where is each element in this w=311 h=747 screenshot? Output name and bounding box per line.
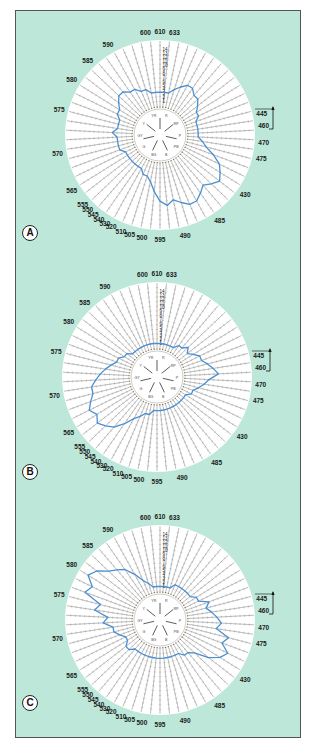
- wavelength-label: 570: [49, 392, 60, 399]
- wavelength-label: 580: [63, 318, 74, 325]
- hue-label: PB: [174, 145, 179, 149]
- hue-label: YR: [148, 356, 153, 360]
- wavelength-label: 445: [253, 352, 264, 359]
- hue-label: RP: [174, 122, 180, 126]
- wavelength-label: 470: [258, 139, 269, 146]
- hue-label: RP: [171, 364, 177, 368]
- hue-label: YR: [151, 114, 156, 118]
- hue-label: GY: [137, 134, 143, 138]
- wavelength-label: 610: [152, 270, 163, 277]
- wavelength-label: 500: [137, 719, 148, 726]
- wavelength-label: 475: [256, 640, 267, 647]
- panel-label-c: C: [22, 695, 38, 711]
- wavelength-label: 485: [214, 702, 225, 709]
- wavelength-label: 470: [255, 381, 266, 388]
- arrow-up-icon: [271, 591, 274, 595]
- wavelength-label: 590: [103, 526, 114, 533]
- hue-label: G: [142, 145, 145, 149]
- wavelength-label: 500: [137, 234, 148, 241]
- wavelength-label: 505: [124, 716, 135, 723]
- radial-scale-label: 1: [163, 99, 166, 104]
- arrow-up-icon: [268, 348, 271, 352]
- wavelength-label: 475: [256, 155, 267, 162]
- panel-label-b: B: [22, 464, 38, 480]
- wavelength-label: 470: [258, 624, 269, 631]
- wavelength-label: 505: [121, 473, 132, 480]
- hue-label: BG: [148, 395, 153, 399]
- hue-label: YR: [151, 599, 156, 603]
- wavelength-label: 575: [54, 591, 65, 598]
- wavelength-label: 490: [180, 232, 191, 239]
- wavelength-label: 600: [140, 514, 151, 521]
- wavelength-label: 460: [258, 122, 269, 129]
- wavelength-label: 570: [52, 635, 63, 642]
- wavelength-label: 585: [79, 299, 90, 306]
- hue-label: BG: [151, 153, 156, 157]
- wavelength-label: 570: [52, 150, 63, 157]
- hue-label: BG: [151, 638, 156, 642]
- panel-a: RRPPPBBBGGGYYYR1413121110987654321600610…: [0, 0, 311, 245]
- polar-chart-c: RRPPPBBBGGGYYYR1413121110987654321600610…: [0, 485, 311, 730]
- wavelength-label: 610: [155, 513, 166, 520]
- wavelength-label: 633: [169, 514, 180, 521]
- wavelength-label: 590: [100, 283, 111, 290]
- polar-chart-a: RRPPPBBBGGGYYYR1413121110987654321600610…: [0, 0, 311, 245]
- hue-label: G: [139, 387, 142, 391]
- panel-label-a: A: [22, 225, 38, 241]
- hue-label: RP: [174, 607, 180, 611]
- arrow-up-icon: [271, 106, 274, 110]
- wavelength-label: 575: [51, 348, 62, 355]
- wavelength-label: 430: [240, 191, 251, 198]
- wavelength-label: 460: [258, 607, 269, 614]
- hue-label: PB: [174, 630, 179, 634]
- wavelength-label: 485: [214, 217, 225, 224]
- wavelength-label: 600: [137, 271, 148, 278]
- wavelength-label: 595: [155, 236, 166, 243]
- wavelength-label: 460: [255, 364, 266, 371]
- hue-label: R: [165, 599, 168, 603]
- hue-label: PB: [171, 387, 176, 391]
- hue-label: G: [142, 630, 145, 634]
- wavelength-label: 430: [237, 433, 248, 440]
- wavelength-label: 595: [155, 721, 166, 728]
- wavelength-label: 585: [82, 57, 93, 64]
- wavelength-label: 600: [140, 29, 151, 36]
- wavelength-label: 490: [177, 474, 188, 481]
- hue-label: GY: [134, 376, 140, 380]
- hue-label: R: [165, 114, 168, 118]
- wavelength-label: 610: [155, 28, 166, 35]
- wavelength-label: 565: [66, 672, 77, 679]
- wavelength-label: 500: [134, 476, 145, 483]
- wavelength-label: 633: [169, 29, 180, 36]
- wavelength-label: 485: [211, 459, 222, 466]
- wavelength-label: 580: [66, 76, 77, 83]
- wavelength-label: 445: [256, 110, 267, 117]
- hue-label: GY: [137, 619, 143, 623]
- wavelength-label: 565: [63, 429, 74, 436]
- polar-chart-b: RRPPPBBBGGGYYYR1413121110987654321600610…: [0, 243, 311, 488]
- hue-label: R: [162, 356, 165, 360]
- wavelength-label: 585: [82, 542, 93, 549]
- wavelength-label: 580: [66, 561, 77, 568]
- wavelength-label: 590: [103, 41, 114, 48]
- wavelength-label: 595: [152, 478, 163, 485]
- panel-c: RRPPPBBBGGGYYYR1413121110987654321600610…: [0, 485, 311, 730]
- wavelength-label: 445: [256, 595, 267, 602]
- wavelength-label: 565: [66, 187, 77, 194]
- wavelength-label: 505: [124, 231, 135, 238]
- wavelength-label: 475: [253, 397, 264, 404]
- wavelength-label: 575: [54, 106, 65, 113]
- wavelength-label: 490: [180, 717, 191, 724]
- wavelength-label: 430: [240, 676, 251, 683]
- wavelength-label: 633: [166, 271, 177, 278]
- panel-b: RRPPPBBBGGGYYYR1413121110987654321600610…: [0, 243, 311, 488]
